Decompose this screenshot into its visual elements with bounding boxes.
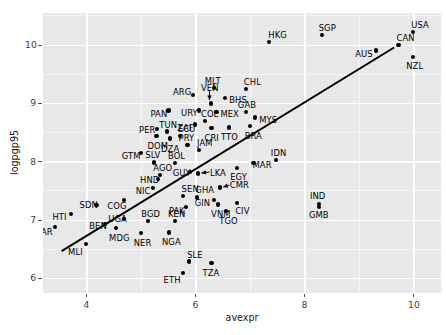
x-tick-label: 6 — [193, 300, 199, 309]
x-tick-label: 8 — [302, 300, 308, 309]
x-tick-label: 4 — [84, 300, 90, 309]
y-axis-label: logpgp95 — [10, 129, 20, 174]
x-tick — [195, 294, 196, 298]
x-axis-label: avexpr — [226, 313, 259, 323]
x-tick — [413, 294, 414, 298]
y-tick — [38, 45, 42, 46]
y-tick — [38, 103, 42, 104]
y-tick-label: 7 — [30, 215, 36, 224]
y-tick-label: 8 — [30, 157, 36, 166]
x-tick-label: 10 — [408, 300, 420, 309]
y-tick — [38, 278, 42, 279]
scatter-plot: HTIZARMLISDNBENMDGCOGUGANERNICHNDGTMSLVA… — [0, 0, 446, 335]
y-tick-label: 6 — [30, 273, 36, 282]
regression-line — [0, 0, 446, 335]
y-tick — [38, 161, 42, 162]
y-tick — [38, 220, 42, 221]
y-tick-label: 10 — [25, 40, 37, 49]
x-tick — [304, 294, 305, 298]
y-tick-label: 9 — [30, 98, 36, 107]
x-tick — [86, 294, 87, 298]
